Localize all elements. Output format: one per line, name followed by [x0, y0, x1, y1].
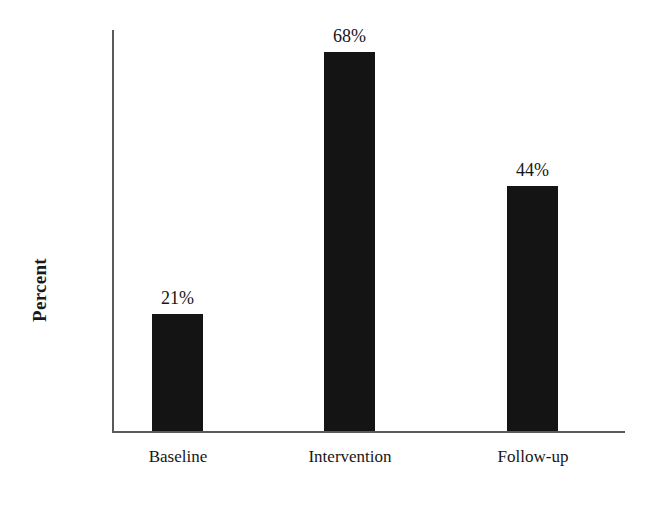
- x-axis-line: [112, 431, 625, 433]
- bar-baseline: 21%: [152, 314, 203, 431]
- bar-value-label-baseline: 21%: [161, 288, 194, 309]
- x-axis-category-intervention: Intervention: [308, 447, 391, 467]
- bar-value-label-intervention: 68%: [333, 26, 366, 47]
- y-axis-title: Percent: [29, 258, 51, 322]
- bar-follow-up: 44%: [507, 186, 558, 431]
- plot-area: 21% 68% 44%: [112, 30, 625, 433]
- x-axis-category-follow-up: Follow-up: [498, 447, 569, 467]
- bar-chart-figure: Percent 21% 68% 44% Baseline Interventio…: [0, 0, 650, 506]
- bar-value-label-follow-up: 44%: [516, 160, 549, 181]
- x-axis-category-baseline: Baseline: [149, 447, 208, 467]
- y-axis-line: [112, 30, 114, 433]
- bar-intervention: 68%: [324, 52, 375, 431]
